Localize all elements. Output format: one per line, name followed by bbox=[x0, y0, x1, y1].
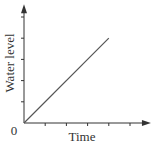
origin-label: 0 bbox=[11, 123, 18, 138]
axes bbox=[21, 4, 151, 126]
x-axis-arrow-icon bbox=[142, 120, 151, 126]
y-axis-label: Water level bbox=[2, 33, 17, 93]
y-axis-arrow-icon bbox=[21, 4, 27, 13]
x-axis-label: Time bbox=[69, 129, 96, 144]
series-line bbox=[24, 38, 109, 123]
data-series bbox=[24, 38, 109, 123]
chart: 0 Time Water level bbox=[0, 0, 154, 153]
